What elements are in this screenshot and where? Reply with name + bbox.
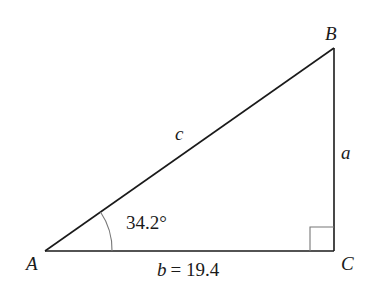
right-angle-marker xyxy=(310,227,334,251)
vertex-label-b: B xyxy=(325,23,337,44)
vertex-label-a: A xyxy=(24,253,38,274)
side-label-c: c xyxy=(175,123,184,144)
right-triangle-diagram: A B C c a b= 19.4 34.2° xyxy=(0,0,374,296)
angle-arc-a xyxy=(101,212,113,251)
side-label-b: b= 19.4 xyxy=(157,259,220,280)
side-c-hypotenuse xyxy=(45,48,334,251)
side-label-a: a xyxy=(341,142,351,163)
angle-label-a: 34.2° xyxy=(126,212,167,233)
side-label-b-value: = 19.4 xyxy=(171,259,220,280)
vertex-label-c: C xyxy=(341,253,354,274)
side-label-b-var: b xyxy=(157,259,167,280)
